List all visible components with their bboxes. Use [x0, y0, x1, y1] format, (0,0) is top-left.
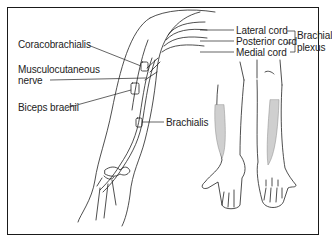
label-lateral-cord: Lateral cord	[236, 25, 288, 36]
label-medial-cord: Medial cord	[236, 47, 287, 58]
label-musculocutaneous-line1: Musculocutaneous	[18, 64, 100, 75]
label-coracobrachialis: Coracobrachialis	[18, 39, 91, 50]
label-brachialis: Brachialis	[166, 117, 208, 128]
label-biceps-brachii: Biceps brachii	[18, 102, 79, 113]
right-sensory-area	[267, 100, 279, 165]
label-brachial-plexus-line2: plexus	[297, 42, 325, 53]
coracobrachialis-marker	[141, 62, 148, 71]
left-sensory-area	[215, 105, 226, 158]
leader-musculocutaneous	[50, 78, 146, 80]
label-musculocutaneous-line2: nerve	[18, 75, 43, 86]
shoulder-curve	[150, 10, 215, 18]
leader-coracobrachialis	[88, 45, 141, 66]
label-brachial-plexus-line1: Brachial	[297, 30, 332, 41]
label-posterior-cord: Posterior cord	[236, 36, 297, 47]
right-forearm-outline	[257, 80, 296, 208]
